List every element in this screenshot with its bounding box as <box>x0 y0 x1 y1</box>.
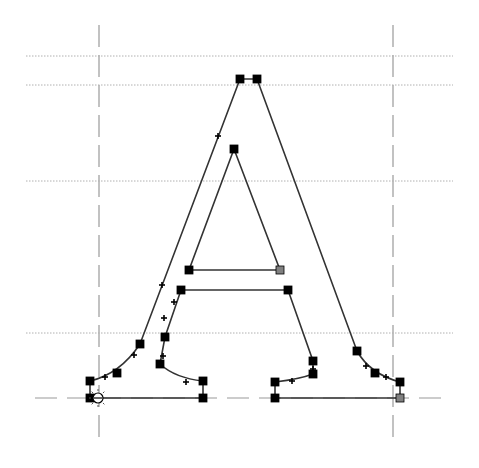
node-handle[interactable] <box>236 75 244 83</box>
node-handle[interactable] <box>309 357 317 365</box>
horizontal-guides <box>26 56 453 333</box>
node-handle[interactable] <box>253 75 261 83</box>
node-handle[interactable] <box>156 360 164 368</box>
node-handle[interactable] <box>271 394 279 402</box>
control-points[interactable] <box>102 133 389 385</box>
control-point-icon[interactable] <box>383 374 389 380</box>
node-handle[interactable] <box>86 377 94 385</box>
control-point-icon[interactable] <box>161 315 167 321</box>
node-handle[interactable] <box>161 333 169 341</box>
control-point-icon[interactable] <box>131 352 137 358</box>
node-handle[interactable] <box>284 286 292 294</box>
node-handle[interactable] <box>353 347 361 355</box>
node-handle[interactable] <box>185 266 193 274</box>
glyph-editor-canvas[interactable] <box>0 0 479 468</box>
node-handle[interactable] <box>396 378 404 386</box>
control-point-icon[interactable] <box>183 379 189 385</box>
vertical-guides <box>99 25 393 445</box>
node-handle[interactable] <box>271 378 279 386</box>
node-handle[interactable] <box>230 145 238 153</box>
control-point-icon[interactable] <box>159 282 165 288</box>
inner-contour-path[interactable] <box>189 149 280 270</box>
control-point-icon[interactable] <box>363 363 369 369</box>
node-handle[interactable] <box>113 369 121 377</box>
node-handle[interactable] <box>396 394 404 402</box>
node-handle[interactable] <box>276 266 284 274</box>
node-handle[interactable] <box>177 286 185 294</box>
node-handle[interactable] <box>309 370 317 378</box>
node-handle[interactable] <box>371 369 379 377</box>
node-handle[interactable] <box>199 394 207 402</box>
node-handle[interactable] <box>136 340 144 348</box>
node-handle[interactable] <box>199 377 207 385</box>
